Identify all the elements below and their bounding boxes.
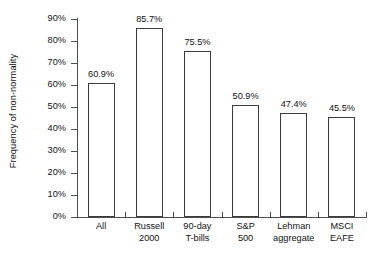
x-axis-tick (366, 212, 367, 218)
bar (232, 105, 259, 217)
x-axis-category-label: Lehmanaggregate (273, 221, 314, 244)
category-label-line-2: 2000 (134, 233, 164, 245)
y-axis-tick-label: 0% (26, 211, 66, 221)
y-axis-tick-label: 50% (26, 101, 66, 111)
category-label-line-1: All (96, 221, 106, 231)
y-axis-tick (71, 107, 77, 108)
bar (184, 51, 211, 217)
y-axis-tick (71, 19, 77, 20)
category-label-line-2: T-bills (183, 233, 211, 245)
bar (328, 117, 355, 217)
y-axis-tick (71, 195, 77, 196)
bar-value-label: 45.5% (329, 103, 355, 113)
bar-value-label: 50.9% (233, 91, 259, 101)
x-axis-category-label: S&P500 (236, 221, 254, 244)
category-label-line-2: 500 (236, 233, 254, 245)
x-axis-tick (173, 212, 174, 218)
y-axis-tick (71, 151, 77, 152)
x-axis-tick (77, 212, 78, 218)
y-axis-tick (71, 41, 77, 42)
y-axis-tick (71, 63, 77, 64)
y-axis-tick-label: 40% (26, 123, 66, 133)
y-axis-tick-label: 30% (26, 145, 66, 155)
bar (280, 113, 307, 217)
x-axis-tick (318, 212, 319, 218)
y-axis-tick-label: 80% (26, 35, 66, 45)
bar (136, 28, 163, 217)
x-axis-tick (222, 212, 223, 218)
x-axis-category-label: Russell2000 (134, 221, 164, 244)
x-axis-category-label: 90-dayT-bills (183, 221, 211, 244)
category-label-line-1: 90-day (183, 221, 211, 231)
y-axis-tick-label: 20% (26, 167, 66, 177)
y-axis-title: Frequency of non-normality (0, 0, 26, 222)
y-axis-line (77, 18, 78, 218)
y-axis-tick (71, 129, 77, 130)
bar-value-label: 85.7% (136, 14, 162, 24)
x-axis-category-label: All (96, 221, 106, 233)
x-axis-tick (270, 212, 271, 218)
category-label-line-1: S&P (236, 221, 254, 231)
bar-value-label: 60.9% (88, 69, 114, 79)
bar-value-label: 47.4% (281, 99, 307, 109)
category-label-line-2: EAFE (330, 233, 354, 245)
bar-chart: Frequency of non-normality 0%10%20%30%40… (0, 0, 374, 257)
x-axis-tick (125, 212, 126, 218)
category-label-line-1: Russell (134, 221, 164, 231)
y-axis-tick-label: 70% (26, 57, 66, 67)
bar (88, 83, 115, 217)
y-axis-tick-label: 10% (26, 189, 66, 199)
y-axis-title-text: Frequency of non-normality (8, 54, 18, 168)
x-axis-category-label: MSCIEAFE (330, 221, 354, 244)
y-axis-tick-label: 90% (26, 13, 66, 23)
bar-value-label: 75.5% (184, 37, 210, 47)
category-label-line-2: aggregate (273, 233, 314, 245)
category-label-line-1: MSCI (330, 221, 353, 231)
y-axis-tick-label: 60% (26, 79, 66, 89)
y-axis-tick (71, 173, 77, 174)
y-axis-tick (71, 85, 77, 86)
category-label-line-1: Lehman (277, 221, 310, 231)
